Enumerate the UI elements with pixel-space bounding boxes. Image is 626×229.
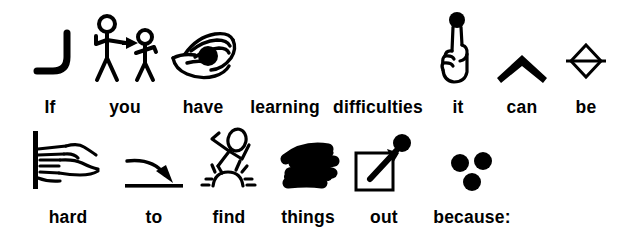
pictogram-word-can: can	[488, 51, 556, 117]
figure-over-sunburst-icon	[190, 127, 268, 193]
pictogram-word-if: If	[14, 23, 86, 117]
pictogram-word-find: find	[190, 127, 268, 227]
pictogram-word-things: things	[268, 141, 348, 227]
word-label: can	[507, 99, 538, 117]
pictogram-word-difficulties: difficulties	[328, 85, 428, 117]
word-label: If	[44, 99, 55, 117]
hand-gripping-bar-icon	[18, 129, 118, 193]
word-label: out	[370, 209, 398, 227]
pictogram-word-have: have	[164, 27, 242, 117]
pictogram-word-to: to	[118, 149, 190, 227]
pictogram-word-be: be	[556, 39, 616, 117]
pictogram-word-hard: hard	[18, 129, 118, 227]
pictogram-word-learning: learning	[242, 85, 328, 117]
word-label: because:	[433, 209, 510, 227]
scribble-icon	[268, 141, 348, 193]
pictogram-word-out: out	[348, 133, 420, 227]
sentence-line-2: hard to	[0, 118, 626, 226]
pictogram-word-it: it	[428, 11, 488, 117]
curved-hook-icon	[14, 23, 86, 85]
word-label: things	[281, 209, 335, 227]
word-label: difficulties	[333, 99, 423, 117]
pictogram-sentence-sheet: If	[0, 0, 626, 229]
two-stick-figures-pointing-icon	[86, 13, 164, 85]
sentence-line-1: If	[0, 4, 626, 116]
word-label: hard	[49, 209, 88, 227]
pictogram-word-because: because:	[420, 151, 524, 227]
hands-holding-ball-icon	[164, 27, 242, 85]
word-label: to	[146, 209, 163, 227]
pictogram-word-you: you	[86, 13, 164, 117]
square-with-exit-arrow-icon	[348, 133, 420, 193]
word-label: be	[576, 99, 597, 117]
up-chevron-icon	[488, 51, 556, 85]
word-label: find	[213, 209, 246, 227]
word-label: have	[183, 99, 224, 117]
word-label: learning	[250, 99, 320, 117]
diamond-with-line-icon	[556, 39, 616, 85]
word-label: it	[452, 99, 463, 117]
pointing-finger-dot-icon	[428, 11, 488, 85]
three-dots-icon	[420, 151, 524, 193]
curved-arrow-to-line-icon	[118, 149, 190, 193]
word-label: you	[109, 99, 141, 117]
